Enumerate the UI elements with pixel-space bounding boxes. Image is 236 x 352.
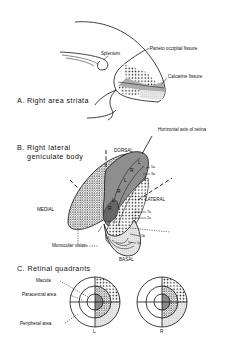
panel-b-title-line2: geniculate body <box>27 152 83 161</box>
panel-c-retinal-quadrants: C. Retinal quadrants L R <box>17 264 187 334</box>
circle-label-right: R <box>160 329 164 334</box>
layer-label-1a: 1a <box>137 241 141 245</box>
layer-letter-3: L <box>124 177 127 183</box>
visual-pathway-diagram: Splenium Parieto occipital fissure Calca… <box>0 0 236 352</box>
layer-letter-2: R <box>130 167 134 173</box>
medial-axis-dashed <box>70 180 80 190</box>
layer-letter-6: R <box>108 205 112 211</box>
label-peripheral-area: Peripheral area <box>20 321 52 326</box>
label-basal: BASAL <box>119 257 134 262</box>
layer-label-7a: 7a <box>147 210 151 214</box>
layer-label-2a: 2a <box>147 216 151 220</box>
label-horizontal-axis: Horizontal axis of retina <box>158 127 206 132</box>
label-macula: Macula <box>36 278 51 283</box>
horizontal-axis-line <box>142 136 152 154</box>
retina-circle-left <box>70 277 120 327</box>
label-monocular-vision: Monocular vision <box>52 243 87 248</box>
label-splenium: Splenium <box>101 51 120 56</box>
panel-c-title: C. Retinal quadrants <box>17 264 91 273</box>
label-calcarine-fissure: Calcarine fissure <box>168 74 203 79</box>
circle-label-left: L <box>93 329 96 334</box>
label-dorsal: DORSAL <box>114 148 133 153</box>
retina-circle-right <box>137 277 187 327</box>
layer-letter-1: L <box>138 159 141 165</box>
label-paracentral-area: Paracentral area <box>22 292 56 297</box>
panel-b-lateral-geniculate: B. Right lateral geniculate body L R L R… <box>17 127 206 262</box>
layer-label-1b: 1b <box>141 234 145 238</box>
layer-letter-5: L <box>112 197 115 203</box>
label-lateral: LATERAL <box>145 197 166 202</box>
panel-a-area-striata: Splenium Parieto occipital fissure Calca… <box>17 22 203 120</box>
panel-b-title-line1: B. Right lateral <box>17 143 71 152</box>
layer-label-5a: 5a <box>151 165 155 169</box>
label-parieto-occipital-fissure: Parieto occipital fissure <box>150 46 198 51</box>
layer-letter-4: R <box>117 188 121 194</box>
panel-a-title: A. Right area striata <box>17 96 89 105</box>
layer-label-3a: 3a <box>151 172 155 176</box>
label-medial: MEDIAL <box>37 207 55 212</box>
